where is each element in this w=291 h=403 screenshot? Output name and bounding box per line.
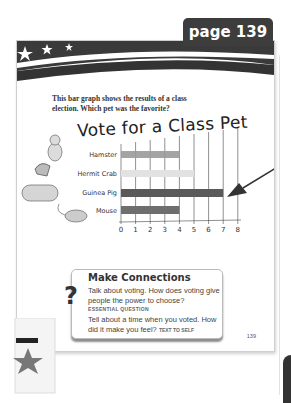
tick-label: 8 xyxy=(233,226,243,234)
question-text: Tell about a time when you voted. How di… xyxy=(88,315,216,334)
text-to-self-question: Tell about a time when you voted. How di… xyxy=(88,315,220,335)
hermit-crab-icon xyxy=(35,164,50,176)
bar-hermit-crab xyxy=(121,170,194,177)
book-edge-decoration xyxy=(0,318,60,403)
bar-hamster xyxy=(121,151,179,158)
question-tag: TEXT TO SELF xyxy=(159,327,194,333)
question-mark-icon: ? xyxy=(64,282,78,310)
category-label: Mouse xyxy=(57,207,117,215)
bar-mouse xyxy=(121,206,179,214)
make-connections-box: ? Make Connections Talk about voting. Ho… xyxy=(71,269,223,339)
page-tab[interactable]: page 139 xyxy=(183,18,273,46)
tick-label: 1 xyxy=(131,226,141,234)
question-tag: ESSENTIAL QUESTION xyxy=(88,305,220,315)
side-edge-line xyxy=(279,55,280,395)
textbook-page: This bar graph shows the results of a cl… xyxy=(16,40,275,352)
category-label: Hamster xyxy=(57,151,117,159)
tick-label: 0 xyxy=(116,226,126,234)
category-label: Hermit Crab xyxy=(57,170,117,178)
arrow-pointer-icon xyxy=(227,166,274,197)
guinea-pig-icon xyxy=(22,185,58,201)
tick-label: 7 xyxy=(218,226,228,234)
tick-label: 3 xyxy=(160,226,170,234)
page-number: 139 xyxy=(247,333,256,339)
question-text: Talk about voting. How does voting give … xyxy=(88,286,220,305)
tick-label: 4 xyxy=(174,226,184,234)
tick-label: 5 xyxy=(189,226,199,234)
make-connections-title: Make Connections xyxy=(88,272,191,283)
chart-canvas xyxy=(17,116,274,276)
bar-chart: Vote for a Class Pet xyxy=(17,116,274,276)
bar-guinea-pig xyxy=(121,189,223,197)
intro-text: This bar graph shows the results of a cl… xyxy=(52,94,212,114)
side-tab-dark xyxy=(283,355,291,403)
tick-label: 6 xyxy=(204,226,214,234)
flag-banner xyxy=(17,41,274,81)
category-label: Guinea Pig xyxy=(57,189,117,197)
tick-label: 2 xyxy=(145,226,155,234)
page-tab-label: page 139 xyxy=(189,23,267,41)
essential-question: Talk about voting. How does voting give … xyxy=(88,286,220,315)
